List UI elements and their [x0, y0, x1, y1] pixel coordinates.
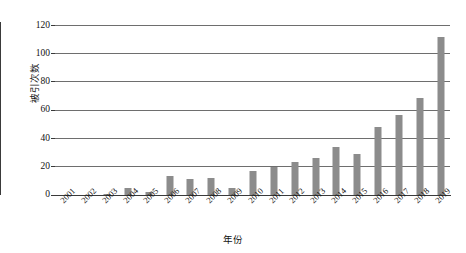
bar-slot [243, 24, 264, 195]
bar-slot [368, 24, 389, 195]
bar-slot [284, 24, 305, 195]
bar-2017 [395, 115, 402, 195]
bar-slot [409, 24, 430, 195]
bar-slot [97, 24, 118, 195]
bar-slot [201, 24, 222, 195]
y-tick-label: 20 [16, 162, 50, 172]
y-tick-label: 80 [16, 77, 50, 87]
y-axis-tick-labels: 120 100 80 60 40 20 0 [12, 0, 50, 253]
bar-slot [326, 24, 347, 195]
bar-series [55, 24, 451, 195]
y-tick-label: 0 [16, 190, 50, 200]
bar-slot [264, 24, 285, 195]
bar-slot [347, 24, 368, 195]
bar-2016 [375, 127, 382, 195]
x-axis-title: 年份 [0, 232, 466, 246]
y-axis-line [0, 22, 1, 195]
bar-slot [305, 24, 326, 195]
bar-slot [430, 24, 451, 195]
bar-slot [159, 24, 180, 195]
bar-slot [222, 24, 243, 195]
bar-slot [118, 24, 139, 195]
bar-slot [389, 24, 410, 195]
y-tick-label: 40 [16, 134, 50, 144]
bar-slot [138, 24, 159, 195]
y-tick-label: 60 [16, 105, 50, 115]
bar-slot [180, 24, 201, 195]
bar-slot [55, 24, 76, 195]
y-tick-label: 120 [16, 21, 50, 31]
x-axis-tick-labels: 2001 2002 2003 2004 2005 2006 2007 2008 … [55, 196, 451, 236]
citation-bar-chart: 被引次数 120 100 80 60 40 20 0 [0, 0, 466, 253]
y-tick-label: 100 [16, 49, 50, 59]
bar-slot [76, 24, 97, 195]
bar-2019 [437, 37, 444, 195]
bar-2018 [416, 98, 423, 195]
